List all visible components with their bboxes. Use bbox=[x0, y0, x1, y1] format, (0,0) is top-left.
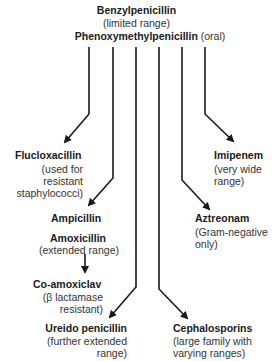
benzylpenicillin-title: Benzylpenicillin bbox=[0, 4, 273, 17]
cephalosporins-desc-1: (large family with bbox=[173, 335, 252, 348]
aztreonam-desc-2: only) bbox=[195, 238, 218, 251]
amoxicillin-name: Amoxicillin bbox=[50, 232, 106, 245]
ureido-penicillin-name: Ureido penicillin bbox=[0, 322, 127, 335]
arrow-to-imipenem bbox=[205, 47, 233, 141]
flucloxacillin-desc-3: staphylococci) bbox=[0, 187, 83, 200]
arrow-to-flucloxacillin bbox=[65, 47, 89, 142]
co-amoxiclav-name: Co-amoxiclav bbox=[33, 278, 101, 291]
arrow-to-ureido bbox=[110, 47, 136, 317]
imipenem-name: Imipenem bbox=[214, 149, 263, 162]
imipenem-desc-1: (very wide bbox=[214, 163, 262, 176]
ureido-penicillin-desc-2: range) bbox=[0, 347, 127, 360]
phenoxymethylpenicillin-label: Phenoxymethylpenicillin (oral) bbox=[0, 30, 273, 43]
oral-note: (oral) bbox=[201, 30, 226, 42]
benzylpenicillin-subtitle: (limited range) bbox=[0, 17, 273, 30]
co-amoxiclav-desc-1: (β lactamase bbox=[0, 291, 103, 304]
ampicillin-name: Ampicillin bbox=[51, 212, 101, 225]
flucloxacillin-name: Flucloxacillin bbox=[15, 149, 82, 162]
ureido-penicillin-desc-1: (further extended bbox=[0, 335, 127, 348]
aztreonam-name: Aztreonam bbox=[195, 212, 249, 225]
aztreonam-desc-1: (Gram-negative bbox=[195, 226, 268, 239]
arrow-to-ampicillin bbox=[89, 47, 113, 205]
cephalosporins-name: Cephalosporins bbox=[173, 322, 252, 335]
flucloxacillin-desc-2: resistant bbox=[0, 175, 83, 188]
amoxicillin-desc: (extended range) bbox=[39, 244, 119, 257]
phenoxymethylpenicillin-name: Phenoxymethylpenicillin bbox=[75, 30, 198, 42]
cephalosporins-desc-2: varying ranges) bbox=[173, 347, 245, 360]
co-amoxiclav-desc-2: resistant) bbox=[0, 303, 103, 316]
flucloxacillin-desc-1: (used for bbox=[0, 163, 83, 176]
imipenem-desc-2: range) bbox=[214, 175, 244, 188]
